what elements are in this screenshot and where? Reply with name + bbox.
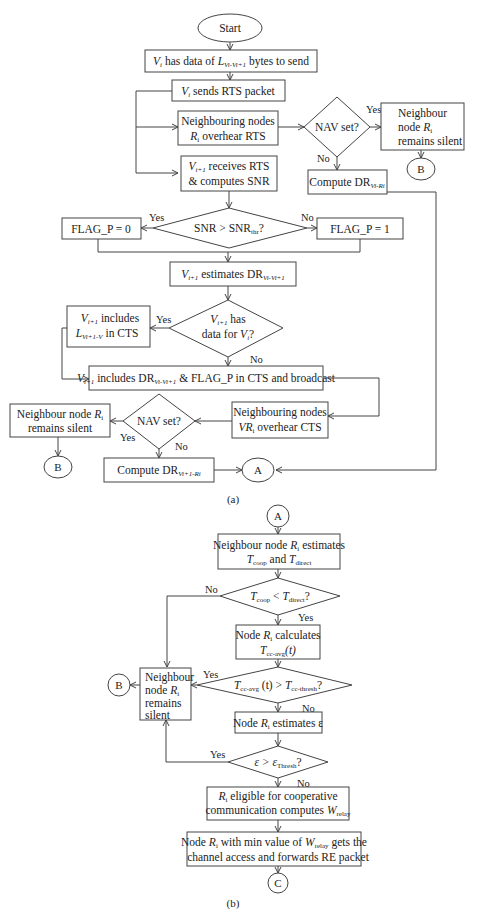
svg-text:Ri overhear RTS: Ri overhear RTS [189,130,265,144]
svg-text:Yes: Yes [120,432,135,443]
neighbour-silent-box-b: Neighbour node Ri remains silent [140,668,194,721]
snr-decision: SNR > SNRthr? [153,208,307,248]
estimates-epsilon-box: Node Ri estimates ε [233,712,323,733]
svg-text:node Ri: node Ri [145,684,179,698]
svg-text:Yes: Yes [366,104,381,115]
svg-text:A: A [274,510,282,522]
svg-text:Vi+1 has: Vi+1 has [210,313,246,327]
svg-text:Node Ri with min value of Wrel: Node Ri with min value of Wrelay gets th… [181,836,367,850]
svg-text:C: C [274,877,281,889]
svg-text:remains silent: remains silent [28,422,93,434]
svg-text:B: B [54,461,61,473]
svg-text:B: B [115,679,122,691]
compute-dr-vi1-ri-box: Compute DRVi+1-Ri [104,458,214,482]
epsilon-decision: ε > εThresh? [228,746,328,778]
start-terminal: Start [198,14,262,42]
svg-text:communication computes Wrelay: communication computes Wrelay [206,804,351,818]
svg-text:NAV set?: NAV set? [315,121,359,133]
svg-text:Yes: Yes [298,612,313,623]
vi1-receives-rts-box: Vi+1 receives RTS & computes SNR [181,156,277,191]
compute-dr-vi-ri-box: Compute DRVi-Ri [308,170,387,194]
svg-text:Neighbour node Ri estimates: Neighbour node Ri estimates [213,539,345,553]
svg-text:Yes: Yes [149,212,164,223]
tcoop-decision: Tcoop < Tdirect? [220,578,340,615]
svg-text:data for Vi?: data for Vi? [202,328,254,342]
vi-sends-rts-box: Vi sends RTS packet [172,80,285,101]
svg-text:FLAG_P = 1: FLAG_P = 1 [330,223,390,235]
svg-text:B: B [417,163,424,175]
svg-text:remains silent: remains silent [398,135,463,147]
svg-text:Start: Start [219,22,242,34]
svg-text:No: No [317,153,330,164]
flowchart: Start Vi has data of LVi-Vi+1 bytes to s… [0,0,482,914]
svg-text:Neighbour: Neighbour [145,671,194,684]
svg-text:No: No [301,212,314,223]
svg-text:No: No [175,441,188,452]
connector-c: C [268,873,288,893]
svg-text:Yes: Yes [210,749,225,760]
svg-text:Neighbouring nodes: Neighbouring nodes [181,115,275,128]
includes-l-box: Vi+1 includes LVi+1-V in CTS [67,306,150,347]
eligible-cooperative-box: Ri eligible for cooperative communicatio… [206,787,351,820]
caption-a: (a) [227,493,240,506]
svg-text:channel access and forwards RE: channel access and forwards RE packet [187,851,369,864]
svg-text:Vi sends RTS packet: Vi sends RTS packet [181,85,275,99]
svg-text:No: No [205,584,218,595]
tcc-decision: Tcc-avg (t) > Tcc-thresh? [197,667,352,703]
neighbour-silent-box-1: Neighbour node Ri remains silent [381,103,464,150]
neighbour-silent-box-2: Neighbour node Ri remains silent [10,404,110,437]
svg-text:Vi+1 includes DRVi-Vi+1 & FLAG: Vi+1 includes DRVi-Vi+1 & FLAG_P in CTS … [77,372,336,386]
connector-a-out: A [242,458,274,482]
svg-text:FLAG_P = 0: FLAG_P = 0 [71,223,131,235]
flag-p0-box: FLAG_P = 0 [62,218,141,239]
part-a: Start Vi has data of LVi-Vi+1 bytes to s… [10,14,464,506]
includes-dr-broadcast-box: Vi+1 includes DRVi-Vi+1 & FLAG_P in CTS … [77,366,336,390]
connector-b-out: B [108,674,130,696]
connector-b-1: B [407,158,435,180]
nav-set-decision-1: NAV set? [304,97,370,157]
neighbours-overhear-cts-box: Neighbouring nodes VRi overhear CTS [232,402,328,438]
svg-text:No: No [250,354,263,365]
flag-p1-box: FLAG_P = 1 [317,218,403,239]
part-b: A Neighbour node Ri estimates Tcoop and … [108,505,370,910]
svg-text:VRi overhear CTS: VRi overhear CTS [238,421,321,435]
vi-has-data-box: Vi has data of LVi-Vi+1 bytes to send [145,50,317,72]
neighbours-overhear-rts-box: Neighbouring nodes Ri overhear RTS [178,111,278,145]
estimates-tcoop-tdirect-box: Neighbour node Ri estimates Tcoop and Td… [213,534,345,569]
caption-b: (b) [227,897,240,910]
svg-text:silent: silent [145,709,171,721]
svg-text:A: A [254,464,262,476]
svg-text:Yes: Yes [156,314,171,325]
svg-text:Ri eligible for cooperative: Ri eligible for cooperative [217,790,337,804]
calculates-tcc-avg-box: Node Ri calculates Tcc-avg(t) [236,625,322,659]
svg-text:Neighbour node Ri: Neighbour node Ri [17,408,103,422]
connector-b-2: B [44,456,72,478]
svg-text:& computes SNR: & computes SNR [188,175,269,188]
svg-text:Yes: Yes [203,669,218,680]
has-data-decision: Vi+1 has data for Vi? [169,300,283,357]
vi1-estimates-dr-box: Vi+1 estimates DRVi-Vi+1 [170,262,296,286]
svg-text:remains: remains [145,697,182,709]
min-w-relay-box: Node Ri with min value of Wrelay gets th… [181,832,370,866]
svg-text:Node Ri estimates ε: Node Ri estimates ε [233,717,323,731]
svg-text:NAV set?: NAV set? [137,415,181,427]
svg-text:Neighbouring nodes: Neighbouring nodes [233,406,327,419]
svg-text:Neighbour: Neighbour [398,107,447,120]
svg-text:Node Ri calculates: Node Ri calculates [236,629,322,643]
svg-text:node Ri: node Ri [398,121,432,135]
connector-a-in: A [267,505,289,527]
